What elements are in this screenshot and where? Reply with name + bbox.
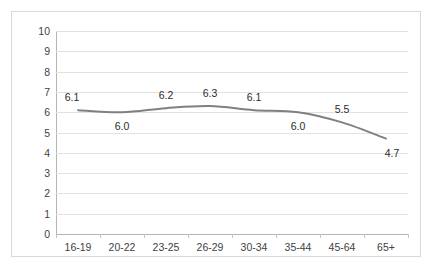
data-point-label: 5.5 [335,104,350,115]
data-point-label: 6.2 [159,90,174,101]
y-axis-tick-label: 8 [28,66,50,77]
y-axis-tick-label: 10 [28,26,50,37]
chart-frame: 109876543210 6.16.06.26.36.16.05.54.7 16… [11,11,421,257]
x-axis-tick-mark [320,234,321,238]
y-axis-tick-label: 5 [28,127,50,138]
y-axis-tick-label: 0 [28,229,50,240]
x-axis-tick-mark [144,234,145,238]
x-axis-tick-mark [408,234,409,238]
x-axis-tick-marks [56,234,408,239]
x-axis-tick-label: 35-44 [285,241,312,254]
x-axis-tick-label: 65+ [377,241,395,254]
x-axis-tick-mark [364,234,365,238]
x-axis-tick-mark [100,234,101,238]
x-axis-tick-labels: 16-1920-2223-2526-2930-3435-4445-6465+ [56,241,408,257]
y-axis-tick-label: 2 [28,188,50,199]
y-axis-tick-label: 3 [28,168,50,179]
plot-area: 6.16.06.26.36.16.05.54.7 [56,31,408,234]
data-point-label: 4.7 [385,147,400,158]
x-axis-tick-mark [56,234,57,238]
y-axis-tick-label: 4 [28,148,50,159]
x-axis-tick-label: 16-19 [65,241,92,254]
line-series-path [56,31,408,234]
data-point-label: 6.1 [247,92,262,103]
data-point-label: 6.0 [115,121,130,132]
x-axis-tick-mark [232,234,233,238]
x-axis-tick-label: 30-34 [241,241,268,254]
y-axis-tick-labels: 109876543210 [24,31,50,234]
y-axis-tick-label: 7 [28,87,50,98]
x-axis-tick-label: 23-25 [153,241,180,254]
chart-plot-wrapper: 109876543210 6.16.06.26.36.16.05.54.7 16… [12,12,422,258]
data-point-label: 6.1 [65,92,80,103]
y-axis-tick-label: 1 [28,208,50,219]
x-axis-tick-label: 26-29 [197,241,224,254]
y-axis-tick-label: 6 [28,107,50,118]
x-axis-tick-label: 45-64 [329,241,356,254]
y-axis-tick-label: 9 [28,46,50,57]
x-axis-tick-label: 20-22 [109,241,136,254]
x-axis-tick-mark [188,234,189,238]
data-point-label: 6.3 [203,88,218,99]
x-axis-tick-mark [276,234,277,238]
data-point-label: 6.0 [291,121,306,132]
